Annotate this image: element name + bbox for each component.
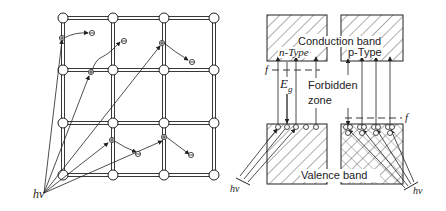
photon-label-n: hν: [230, 184, 239, 194]
energy-gap-label: Eg: [280, 77, 292, 94]
photon-label-p: hν: [413, 186, 422, 196]
photon-label-lattice: hν: [33, 188, 44, 200]
forbidden-zone-line1: Forbidden: [308, 78, 358, 93]
forbidden-zone-line2: zone: [308, 93, 358, 108]
fermi-label-n: f: [265, 64, 268, 75]
p-type-label: p-Type: [347, 47, 383, 58]
diagram-canvas: [0, 0, 446, 211]
p-type-text: p-Type: [348, 46, 382, 58]
carriers: [59, 30, 194, 157]
electron-paths: [64, 33, 189, 154]
n-type-label: n-Type: [278, 47, 310, 58]
fermi-label-p: f: [405, 112, 408, 123]
valence-band-label: Valence band: [301, 170, 367, 181]
crystal-lattice: [44, 13, 219, 193]
energy-gap-sub: g: [288, 84, 293, 94]
energy-gap-e: E: [280, 76, 288, 91]
n-type-text: n-Type: [279, 46, 309, 58]
forbidden-zone-label: Forbidden zone: [308, 78, 358, 108]
